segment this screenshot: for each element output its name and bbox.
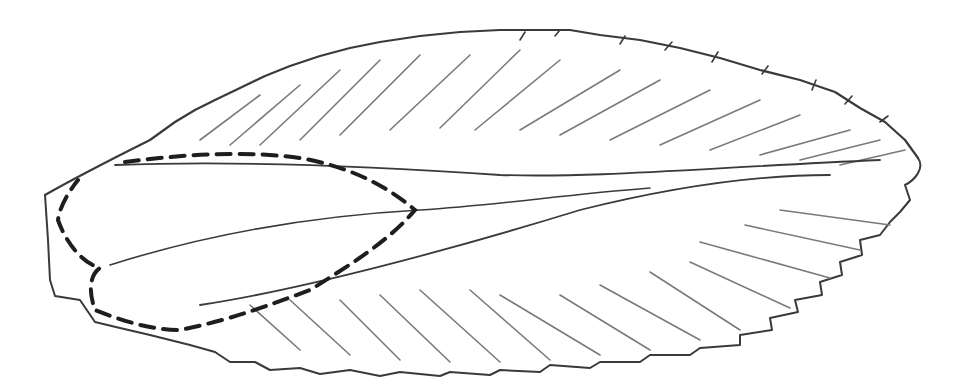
median-vein xyxy=(110,188,650,265)
upper-margin xyxy=(45,30,918,195)
cubital-vein xyxy=(200,175,830,305)
lower-veins xyxy=(250,210,890,362)
upper-veins xyxy=(200,50,905,165)
costal-vein xyxy=(115,160,880,176)
dashed-basal-outline xyxy=(58,154,415,330)
wing-sketch xyxy=(0,0,963,386)
sketch-canvas xyxy=(0,0,963,386)
upper-teeth xyxy=(520,30,888,122)
